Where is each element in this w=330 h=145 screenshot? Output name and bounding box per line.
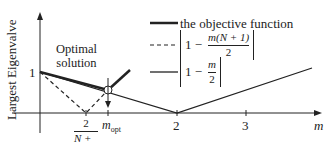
x-axis-arrow — [314, 110, 322, 116]
series-one-minus-m-n1-half — [40, 72, 108, 113]
x-tick-two-over-n-plus-one: 2 N + 1 — [74, 118, 98, 145]
x-axis-label: m — [314, 119, 323, 132]
annotation-line1: Optimal — [56, 43, 97, 57]
annotation-line2: solution — [56, 57, 97, 71]
x-tick-2: 2 — [173, 119, 180, 132]
legend-item-dashed: 1 − m(N + 1)2 — [180, 30, 254, 60]
series-one-minus-m-half — [40, 68, 312, 113]
x-tick-m-opt: mopt — [102, 119, 121, 134]
y-axis-label: Largest Eigenvalve — [4, 20, 20, 120]
y-tick-one: 1 — [29, 66, 36, 79]
y-axis-arrow — [37, 12, 43, 20]
x-tick-3: 3 — [242, 119, 249, 132]
legend-item-thin: 1 − m2 — [180, 57, 221, 87]
series-objective-function — [40, 72, 108, 90]
annotation-optimal: Optimal solution — [56, 43, 97, 71]
